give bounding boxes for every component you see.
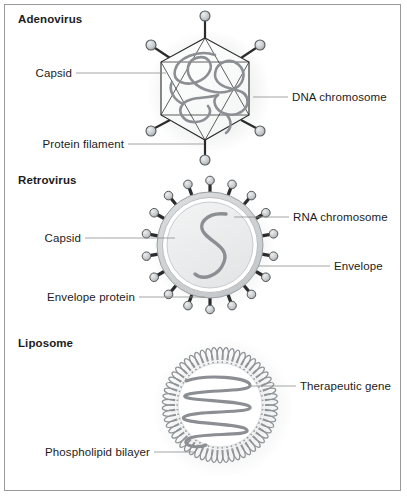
callout-retrovirus-rna-chromosome: RNA chromosome: [293, 211, 388, 223]
envelope-protein-knob-icon: [142, 252, 151, 261]
callout-adenovirus-protein-filament: Protein filament: [0, 138, 124, 150]
envelope-protein-knob-icon: [247, 191, 256, 200]
filament-knob-icon: [255, 126, 265, 136]
filament-knob-icon: [200, 11, 210, 21]
filament-knob-icon: [146, 126, 156, 136]
callout-liposome-therapeutic-gene: Therapeutic gene: [300, 380, 391, 392]
panel-title-liposome: Liposome: [18, 337, 73, 349]
adenovirus-illustration: [146, 11, 271, 165]
envelope-protein-knob-icon: [228, 301, 237, 310]
envelope-protein-knob-icon: [206, 305, 215, 314]
callout-retrovirus-envelope-protein: Envelope protein: [0, 291, 135, 303]
envelope-protein-knob-icon: [247, 290, 256, 299]
envelope-protein-knob-icon: [228, 180, 237, 189]
filament-knob-icon: [255, 40, 265, 50]
panel-title-adenovirus: Adenovirus: [18, 13, 82, 25]
envelope-protein-knob-icon: [262, 208, 271, 217]
filament-knob-icon: [200, 155, 210, 165]
callout-retrovirus-envelope: Envelope: [334, 260, 383, 272]
envelope-protein-knob-icon: [150, 273, 159, 282]
envelope-protein-knob-icon: [184, 301, 193, 310]
callout-liposome-phospholipid-bilayer: Phospholipid bilayer: [0, 446, 150, 458]
envelope-protein-knob-icon: [269, 230, 278, 239]
envelope-protein-knob-icon: [269, 252, 278, 261]
envelope-protein-knob-icon: [164, 191, 173, 200]
callout-retrovirus-capsid: Capsid: [0, 232, 81, 244]
envelope-protein-knob-icon: [206, 176, 215, 185]
retrovirus-illustration: [142, 176, 278, 314]
liposome-illustration: [153, 338, 293, 478]
callout-adenovirus-capsid: Capsid: [0, 67, 72, 79]
callout-adenovirus-dna-chromosome: DNA chromosome: [292, 91, 387, 103]
panel-title-retrovirus: Retrovirus: [18, 174, 77, 186]
envelope-protein-knob-icon: [184, 180, 193, 189]
filament-knob-icon: [146, 40, 156, 50]
gene-therapy-vectors-figure: Adenovirus Capsid DNA chromosome Protein…: [0, 0, 407, 500]
envelope-protein-knob-icon: [262, 273, 271, 282]
envelope-protein-knob-icon: [164, 290, 173, 299]
envelope-protein-knob-icon: [150, 208, 159, 217]
envelope-protein-knob-icon: [142, 230, 151, 239]
